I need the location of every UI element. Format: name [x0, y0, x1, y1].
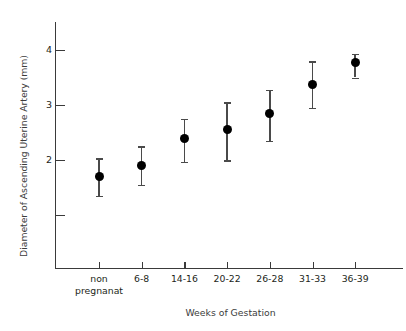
y-axis-tick	[56, 105, 65, 106]
error-bar-cap-upper	[309, 61, 316, 63]
error-bar-cap-lower	[309, 108, 316, 110]
x-axis-tick	[142, 262, 143, 269]
y-axis-title: Diameter of Ascending Uterine Artery (mm…	[18, 26, 34, 286]
data-point-marker	[308, 80, 317, 89]
y-axis-tick	[56, 160, 65, 161]
error-bar-cap-lower	[266, 141, 273, 143]
data-point-marker	[137, 161, 146, 170]
y-axis-tick	[56, 50, 65, 51]
y-axis-line	[55, 22, 56, 269]
error-bar-cap-upper	[266, 90, 273, 92]
error-bar-cap-upper	[352, 54, 359, 56]
data-point-marker	[223, 125, 232, 134]
data-point-marker	[351, 58, 360, 67]
x-axis-tick	[355, 262, 356, 269]
data-point-marker	[265, 109, 274, 118]
y-axis-tick-label: 3	[38, 99, 52, 110]
y-axis-tick-label: 2	[38, 154, 52, 165]
x-axis-tick	[227, 262, 228, 269]
x-axis-title: Weeks of Gestation	[55, 307, 406, 318]
data-point-marker	[95, 172, 104, 181]
error-bar-cap-upper	[138, 146, 145, 148]
x-axis-tick-label: 36-39	[320, 273, 390, 285]
error-bar-cap-lower	[138, 185, 145, 187]
data-point-marker	[180, 134, 189, 143]
y-axis-tick	[56, 215, 65, 216]
x-axis-tick	[184, 262, 185, 269]
x-axis-tick	[270, 262, 271, 269]
x-axis-line	[55, 268, 403, 269]
chart-figure: Diameter of Ascending Uterine Artery (mm…	[0, 0, 406, 331]
x-axis-tick	[313, 262, 314, 269]
error-bar-cap-lower	[352, 78, 359, 80]
error-bar-cap-lower	[96, 196, 103, 198]
error-bar-cap-upper	[224, 102, 231, 104]
error-bar-cap-lower	[181, 162, 188, 164]
y-axis-tick-label: 4	[38, 44, 52, 55]
error-bar-cap-upper	[96, 158, 103, 160]
error-bar-cap-upper	[181, 119, 188, 121]
x-axis-tick	[99, 262, 100, 269]
error-bar-cap-lower	[224, 160, 231, 162]
